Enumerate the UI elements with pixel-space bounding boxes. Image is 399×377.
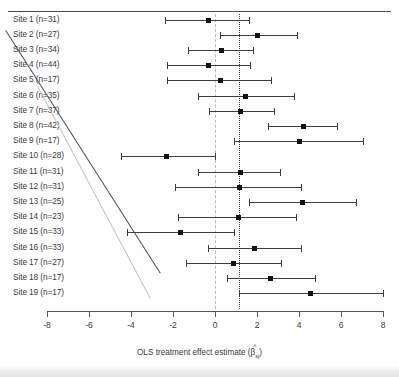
x-tick-6 xyxy=(341,312,342,317)
site-label-16: Site 16 (n=33) xyxy=(13,243,113,252)
site-label-3: Site 3 (n=34) xyxy=(13,45,113,54)
ci-cap-high-site-7 xyxy=(274,108,275,115)
ci-cap-high-site-13 xyxy=(356,199,357,206)
ci-cap-low-site-8 xyxy=(268,123,269,130)
estimate-marker-site-3 xyxy=(219,48,224,53)
site-label-9: Site 9 (n=17) xyxy=(13,136,113,145)
site-label-7: Site 7 (n=37) xyxy=(13,106,113,115)
estimate-marker-site-18 xyxy=(268,276,273,281)
estimate-marker-site-11 xyxy=(238,170,243,175)
ci-cap-high-site-8 xyxy=(337,123,338,130)
x-tick--2 xyxy=(173,312,174,317)
estimate-marker-site-14 xyxy=(236,215,241,220)
ci-cap-low-site-6 xyxy=(198,93,199,100)
ci-cap-high-site-14 xyxy=(296,214,297,221)
x-axis-title: OLS treatment effect estimate (^βsj) xyxy=(0,348,399,359)
x-tick-label--6: -6 xyxy=(74,320,104,330)
forest-plot-figure: Site 1 (n=31)Site 2 (n=27)Site 3 (n=34)S… xyxy=(0,0,399,377)
ci-cap-low-site-14 xyxy=(178,214,179,221)
site-label-10: Site 10 (n=28) xyxy=(13,151,113,160)
estimate-marker-site-16 xyxy=(252,246,257,251)
ci-cap-low-site-10 xyxy=(121,153,122,160)
ci-cap-low-site-17 xyxy=(186,260,187,267)
estimate-marker-site-13 xyxy=(300,200,305,205)
site-label-14: Site 14 (n=23) xyxy=(13,212,113,221)
ci-cap-high-site-11 xyxy=(280,169,281,176)
estimate-marker-site-8 xyxy=(301,124,306,129)
site-label-2: Site 2 (n=27) xyxy=(13,30,113,39)
estimate-marker-site-2 xyxy=(255,33,260,38)
x-axis-title-suffix: ) xyxy=(259,348,262,357)
x-tick-4 xyxy=(299,312,300,317)
estimate-marker-site-17 xyxy=(231,261,236,266)
ci-cap-high-site-9 xyxy=(363,138,364,145)
x-tick-label-2: 2 xyxy=(242,320,272,330)
x-tick-label-6: 6 xyxy=(326,320,356,330)
ci-cap-high-site-5 xyxy=(271,77,272,84)
ci-cap-high-site-10 xyxy=(215,153,216,160)
estimate-marker-site-7 xyxy=(238,109,243,114)
ci-cap-low-site-7 xyxy=(209,108,210,115)
ci-cap-high-site-16 xyxy=(301,245,302,252)
site-label-19: Site 19 (n=17) xyxy=(13,288,113,297)
beta-subscript: sj xyxy=(255,353,259,359)
x-tick-0 xyxy=(215,312,216,317)
ci-cap-low-site-15 xyxy=(127,229,128,236)
ci-cap-high-site-12 xyxy=(301,184,302,191)
ci-cap-low-site-18 xyxy=(227,275,228,282)
site-label-1: Site 1 (n=31) xyxy=(13,15,113,24)
ci-cap-high-site-3 xyxy=(253,47,254,54)
ci-cap-high-site-17 xyxy=(281,260,282,267)
estimate-marker-site-15 xyxy=(178,230,183,235)
site-label-15: Site 15 (n=33) xyxy=(13,227,113,236)
x-tick-label-8: 8 xyxy=(368,320,398,330)
site-label-12: Site 12 (n=31) xyxy=(13,182,113,191)
x-tick-label-0: 0 xyxy=(200,320,230,330)
estimate-marker-site-4 xyxy=(206,63,211,68)
estimate-marker-site-6 xyxy=(243,94,248,99)
x-tick--6 xyxy=(89,312,90,317)
estimate-marker-site-9 xyxy=(297,139,302,144)
page-bottom-edge xyxy=(0,366,399,377)
reference-line-pooled-estimate xyxy=(239,14,240,309)
site-label-column: Site 1 (n=31)Site 2 (n=27)Site 3 (n=34)S… xyxy=(0,14,110,306)
ci-cap-high-site-18 xyxy=(315,275,316,282)
ci-cap-high-site-19 xyxy=(383,290,384,297)
ci-cap-low-site-4 xyxy=(167,62,168,69)
x-tick--8 xyxy=(47,312,48,317)
estimate-marker-site-10 xyxy=(164,154,169,159)
site-label-6: Site 6 (n=35) xyxy=(13,91,113,100)
hat-accent: ^ xyxy=(251,343,260,350)
ci-cap-high-site-1 xyxy=(249,17,250,24)
x-tick-8 xyxy=(383,312,384,317)
site-label-18: Site 18 (n=17) xyxy=(13,273,113,282)
estimate-marker-site-1 xyxy=(206,18,211,23)
ci-cap-low-site-1 xyxy=(165,17,166,24)
ci-cap-low-site-2 xyxy=(220,32,221,39)
estimate-marker-site-5 xyxy=(218,78,223,83)
ci-cap-low-site-19 xyxy=(239,290,240,297)
ci-cap-low-site-3 xyxy=(188,47,189,54)
ci-cap-high-site-2 xyxy=(297,32,298,39)
beta-hat-symbol: ^βsj xyxy=(251,348,260,359)
estimate-marker-site-12 xyxy=(237,185,242,190)
ci-cap-low-site-5 xyxy=(167,77,168,84)
ci-cap-low-site-9 xyxy=(234,138,235,145)
ci-cap-low-site-11 xyxy=(198,169,199,176)
reference-line-null-effect xyxy=(215,14,216,309)
ci-cap-low-site-16 xyxy=(208,245,209,252)
x-tick-label-4: 4 xyxy=(284,320,314,330)
ci-cap-high-site-6 xyxy=(294,93,295,100)
ci-cap-high-site-15 xyxy=(234,229,235,236)
x-axis-title-prefix: OLS treatment effect estimate ( xyxy=(137,348,251,357)
x-tick-label--2: -2 xyxy=(158,320,188,330)
ci-cap-low-site-12 xyxy=(175,184,176,191)
ci-cap-high-site-4 xyxy=(250,62,251,69)
site-label-17: Site 17 (n=27) xyxy=(13,258,113,267)
x-tick-label--4: -4 xyxy=(116,320,146,330)
x-tick-2 xyxy=(257,312,258,317)
ci-cap-low-site-13 xyxy=(249,199,250,206)
x-tick-label--8: -8 xyxy=(32,320,62,330)
estimate-marker-site-19 xyxy=(308,291,313,296)
site-label-5: Site 5 (n=17) xyxy=(13,75,113,84)
